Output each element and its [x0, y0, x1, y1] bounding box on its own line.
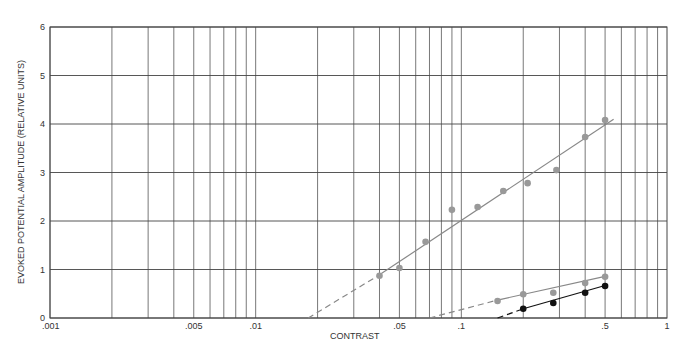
chart-canvas: .001.005.01.05.1.51 0123456 CONTRAST EVO… — [0, 0, 682, 351]
y-tick-label: 4 — [40, 119, 45, 129]
data-point — [449, 207, 456, 214]
data-point — [602, 117, 609, 124]
fit-line-dashed-2 — [498, 309, 524, 318]
x-tick-label: .05 — [393, 321, 406, 331]
x-tick-label: .005 — [185, 321, 203, 331]
y-tick-label: 2 — [40, 216, 45, 226]
data-point — [602, 283, 609, 290]
data-point — [550, 289, 557, 296]
fit-line-dashed-0 — [308, 275, 379, 318]
x-axis-title: CONTRAST — [330, 331, 380, 341]
data-point — [582, 289, 589, 296]
data-point — [422, 239, 429, 246]
y-tick-label: 0 — [40, 313, 45, 323]
x-axis-ticks: .001.005.01.05.1.51 — [42, 321, 670, 331]
data-point — [582, 280, 589, 287]
x-tick-label: .01 — [249, 321, 262, 331]
fit-line-solid-1 — [498, 276, 606, 300]
y-tick-label: 1 — [40, 265, 45, 275]
data-point — [494, 298, 501, 305]
data-point — [396, 265, 403, 272]
data-point — [550, 300, 557, 307]
y-tick-label: 3 — [40, 168, 45, 178]
y-axis-title: EVOKED POTENTIAL AMPLITUDE (RELATIVE UNI… — [16, 60, 26, 284]
y-tick-label: 6 — [40, 22, 45, 32]
x-tick-label: .1 — [458, 321, 466, 331]
evoked-potential-chart: .001.005.01.05.1.51 0123456 CONTRAST EVO… — [0, 0, 682, 351]
x-tick-label: 1 — [664, 321, 669, 331]
y-axis-ticks: 0123456 — [40, 22, 45, 323]
fit-line-dashed-1 — [429, 300, 497, 318]
grid-lines — [50, 27, 667, 318]
data-point — [582, 134, 589, 141]
data-point — [376, 273, 383, 280]
y-tick-label: 5 — [40, 71, 45, 81]
fit-line-solid-2 — [523, 286, 605, 309]
data-point — [553, 167, 560, 174]
data-point — [474, 204, 481, 211]
data-point — [602, 273, 609, 280]
data-point — [524, 180, 531, 187]
data-point — [500, 188, 507, 195]
data-point — [520, 305, 527, 312]
x-tick-label: .5 — [601, 321, 609, 331]
fit-line-solid-0 — [379, 119, 613, 275]
data-point — [520, 291, 527, 298]
